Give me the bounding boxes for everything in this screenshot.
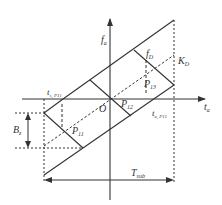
label-t-end: te, P11	[152, 108, 167, 120]
origin-label: O	[99, 103, 106, 114]
label-tsub: Tsub	[131, 167, 145, 179]
label-bz: Bz	[13, 124, 22, 136]
label-p12: P12	[120, 98, 133, 110]
parallelogram-diagram: fa ta O fD KD P11 P12 P13 ts, P11 te, P1…	[0, 0, 222, 205]
perp-left-upper	[44, 99, 63, 113]
kd-dashed-line	[44, 55, 174, 146]
perp-right-p13	[134, 50, 174, 85]
upper-diagonal-edge	[63, 20, 174, 99]
axis-label-fa: fa	[101, 34, 107, 46]
label-fd: fD	[146, 48, 154, 60]
axis-label-ta: ta	[204, 101, 210, 113]
label-kd: KD	[177, 55, 190, 67]
label-p13: P13	[143, 78, 156, 90]
label-t-start: ts, P11	[47, 87, 62, 99]
label-p11: P11	[71, 125, 84, 137]
